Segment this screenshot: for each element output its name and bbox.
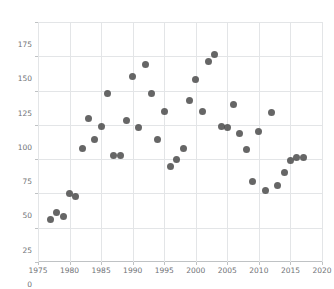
gridline-vertical bbox=[196, 22, 197, 262]
y-axis-tick-labels: 0255075100125150175 bbox=[0, 22, 32, 262]
gridline-vertical bbox=[290, 22, 291, 262]
data-point bbox=[135, 124, 142, 131]
gridline-horizontal bbox=[38, 228, 322, 229]
tick-mark-y bbox=[35, 159, 38, 160]
tick-mark-y bbox=[35, 125, 38, 126]
tick-mark-x bbox=[322, 262, 323, 265]
data-point bbox=[255, 128, 262, 135]
data-point bbox=[154, 136, 161, 143]
data-point bbox=[236, 130, 243, 137]
y-tick-label: 25 bbox=[22, 245, 32, 254]
data-point bbox=[224, 124, 231, 131]
data-point bbox=[205, 58, 212, 65]
y-tick-label: 100 bbox=[18, 142, 32, 151]
tick-mark-y bbox=[35, 262, 38, 263]
x-tick-label: 1995 bbox=[155, 266, 174, 275]
data-point bbox=[243, 146, 250, 153]
x-tick-label: 2000 bbox=[186, 266, 205, 275]
data-point bbox=[249, 178, 256, 185]
gridline-horizontal bbox=[38, 91, 322, 92]
data-point bbox=[180, 145, 187, 152]
y-tick-label: 125 bbox=[18, 108, 32, 117]
gridline-horizontal bbox=[38, 56, 322, 57]
data-point bbox=[274, 182, 281, 189]
data-point bbox=[85, 115, 92, 122]
gridline-vertical bbox=[38, 22, 39, 262]
data-point bbox=[199, 108, 206, 115]
data-point bbox=[98, 123, 105, 130]
plot-area bbox=[38, 22, 322, 262]
x-tick-label: 2015 bbox=[281, 266, 300, 275]
data-point bbox=[173, 156, 180, 163]
scatter-chart-figure: 0255075100125150175 19751980198519901995… bbox=[0, 0, 334, 289]
x-tick-label: 1985 bbox=[92, 266, 111, 275]
y-tick-label: 75 bbox=[22, 177, 32, 186]
x-tick-label: 1975 bbox=[28, 266, 47, 275]
x-tick-label: 1990 bbox=[123, 266, 142, 275]
gridline-horizontal bbox=[38, 193, 322, 194]
data-point bbox=[60, 213, 67, 220]
data-point bbox=[129, 73, 136, 80]
gridline-vertical bbox=[101, 22, 102, 262]
gridline-vertical bbox=[227, 22, 228, 262]
data-point bbox=[142, 61, 149, 68]
data-point bbox=[47, 216, 54, 223]
y-tick-label: 50 bbox=[22, 211, 32, 220]
x-tick-label: 1980 bbox=[60, 266, 79, 275]
data-point bbox=[192, 76, 199, 83]
data-point bbox=[148, 90, 155, 97]
data-point bbox=[91, 136, 98, 143]
gridline-vertical bbox=[259, 22, 260, 262]
x-tick-label: 2020 bbox=[312, 266, 331, 275]
data-point bbox=[123, 117, 130, 124]
x-axis-spine bbox=[38, 261, 322, 262]
data-point bbox=[211, 51, 218, 58]
data-point bbox=[117, 152, 124, 159]
y-tick-label: 0 bbox=[27, 280, 32, 289]
gridline-vertical bbox=[164, 22, 165, 262]
tick-mark-y bbox=[35, 193, 38, 194]
y-tick-label: 150 bbox=[18, 74, 32, 83]
data-point bbox=[167, 163, 174, 170]
data-point bbox=[268, 109, 275, 116]
y-tick-label: 175 bbox=[18, 40, 32, 49]
gridline-vertical bbox=[70, 22, 71, 262]
gridline-vertical bbox=[322, 22, 323, 262]
data-point bbox=[186, 97, 193, 104]
x-tick-label: 2010 bbox=[249, 266, 268, 275]
data-point bbox=[72, 193, 79, 200]
data-point bbox=[262, 187, 269, 194]
data-point bbox=[104, 90, 111, 97]
x-tick-label: 2005 bbox=[218, 266, 237, 275]
tick-mark-y bbox=[35, 91, 38, 92]
gridline-vertical bbox=[133, 22, 134, 262]
data-point bbox=[300, 154, 307, 161]
tick-mark-y bbox=[35, 228, 38, 229]
data-point bbox=[79, 145, 86, 152]
tick-mark-y bbox=[35, 56, 38, 57]
data-point bbox=[230, 101, 237, 108]
gridline-horizontal bbox=[38, 125, 322, 126]
data-point bbox=[281, 169, 288, 176]
x-axis-tick-labels: 1975198019851990199520002005201020152020 bbox=[38, 264, 322, 282]
data-point bbox=[161, 108, 168, 115]
gridline-horizontal bbox=[38, 22, 322, 23]
tick-mark-y bbox=[35, 22, 38, 23]
